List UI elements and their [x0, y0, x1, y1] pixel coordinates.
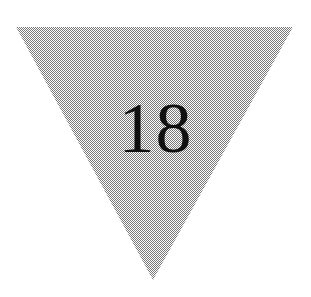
triangle-figure-svg: [0, 0, 311, 297]
figure-canvas: 18: [0, 0, 311, 297]
